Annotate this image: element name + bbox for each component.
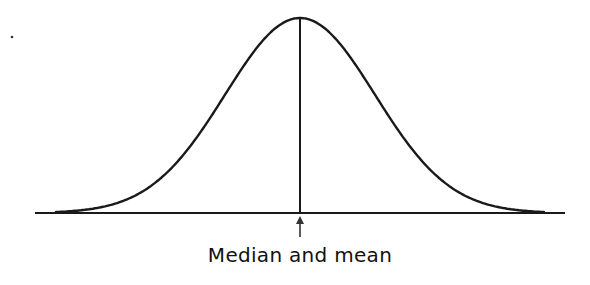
up-arrow-icon <box>296 216 304 237</box>
median-mean-label: Median and mean <box>0 243 590 267</box>
stray-dot <box>11 36 14 39</box>
